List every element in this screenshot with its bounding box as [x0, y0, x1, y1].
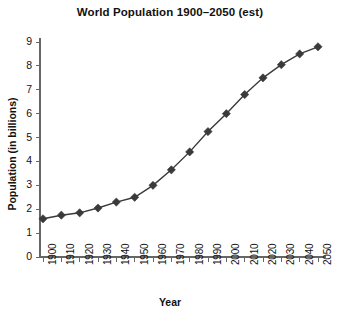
- x-tick-label: 2050: [322, 244, 333, 265]
- x-tick-label: 1960: [157, 244, 168, 265]
- data-point-marker: [57, 211, 65, 219]
- y-tick-label: 6: [10, 107, 32, 119]
- x-tick-label: 1940: [120, 244, 131, 265]
- x-tick-label: 2000: [230, 244, 241, 265]
- y-tick-label: 4: [10, 154, 32, 166]
- x-tick-label: 1980: [194, 244, 205, 265]
- x-tick-label: 1900: [47, 244, 58, 265]
- population-series: [39, 43, 322, 223]
- data-point-marker: [94, 204, 102, 212]
- y-tick-label: 2: [10, 202, 32, 214]
- x-tick-label: 2040: [304, 244, 315, 265]
- y-tick-label: 1: [10, 226, 32, 238]
- plot-area: [0, 0, 340, 317]
- data-point-marker: [76, 209, 84, 217]
- y-tick-label: 7: [10, 83, 32, 95]
- x-tick-label: 2010: [249, 244, 260, 265]
- axes: [40, 38, 326, 257]
- series-line: [43, 47, 318, 219]
- x-tick-label: 1970: [175, 244, 186, 265]
- y-tick-label: 8: [10, 59, 32, 71]
- y-tick-label: 0: [10, 250, 32, 262]
- data-point-marker: [112, 198, 120, 206]
- data-point-marker: [296, 50, 304, 58]
- x-tick-label: 2030: [285, 244, 296, 265]
- x-tick-label: 2020: [267, 244, 278, 265]
- data-point-marker: [131, 193, 139, 201]
- x-tick-label: 1990: [212, 244, 223, 265]
- y-tick-label: 5: [10, 131, 32, 143]
- y-tick-label: 3: [10, 178, 32, 190]
- x-tick-label: 1950: [139, 244, 150, 265]
- axis-ticks: [36, 42, 318, 262]
- data-point-marker: [314, 43, 322, 51]
- x-tick-label: 1920: [84, 244, 95, 265]
- chart-container: World Population 1900–2050 (est) Populat…: [0, 0, 340, 317]
- y-tick-label: 9: [10, 35, 32, 47]
- x-tick-label: 1930: [102, 244, 113, 265]
- x-tick-label: 1910: [65, 244, 76, 265]
